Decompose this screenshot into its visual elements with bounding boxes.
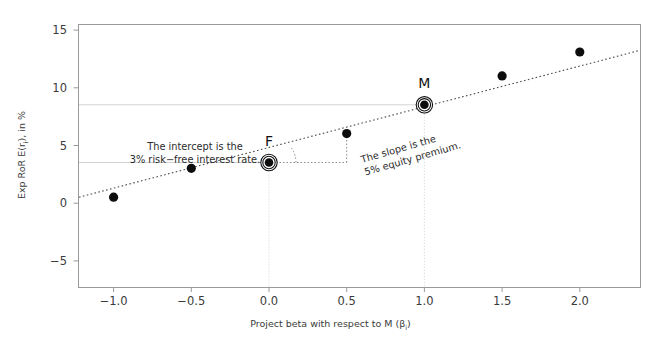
point-f-label: F (265, 133, 273, 149)
point-m-marker[interactable] (416, 97, 432, 113)
data-point[interactable] (498, 71, 507, 80)
x-tick-label: −0.5 (177, 294, 205, 308)
intercept-annotation-line2: 3% risk−free interest rate. (130, 154, 261, 165)
data-point[interactable] (342, 129, 351, 138)
y-tick-label: 10 (52, 81, 67, 95)
y-tick-label: 15 (52, 23, 67, 37)
x-tick-label: 1.0 (415, 294, 433, 308)
chart-figure: F M −1.0 −0.5 0.0 0.5 1.0 1.5 2.0 (0, 0, 661, 340)
x-tick-label: 2.0 (571, 294, 589, 308)
chart-background (0, 0, 661, 340)
y-tick-label: 0 (60, 196, 67, 210)
intercept-annotation-line1: The intercept is the (146, 141, 243, 152)
data-point[interactable] (575, 47, 584, 56)
security-market-line-chart: F M −1.0 −0.5 0.0 0.5 1.0 1.5 2.0 (0, 0, 661, 340)
point-f-marker[interactable] (261, 154, 277, 170)
y-tick-label: 5 (60, 139, 67, 153)
point-m-label: M (418, 75, 430, 91)
x-tick-label: 1.5 (493, 294, 511, 308)
data-point[interactable] (109, 193, 118, 202)
y-tick-label: −5 (50, 254, 67, 268)
x-tick-label: 0.5 (338, 294, 356, 308)
data-point[interactable] (187, 164, 196, 173)
x-tick-label: 0.0 (260, 294, 278, 308)
x-tick-label: −1.0 (100, 294, 128, 308)
